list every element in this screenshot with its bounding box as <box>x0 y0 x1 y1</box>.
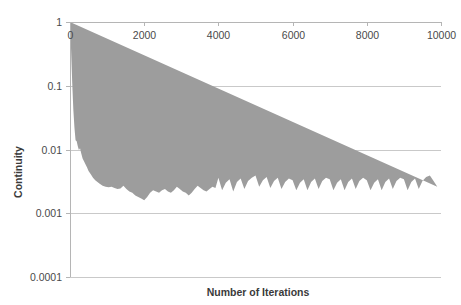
y-tick-label: 0.1 <box>47 80 62 92</box>
x-tick-label: 8000 <box>356 29 380 41</box>
x-tick-label: 10000 <box>427 29 456 41</box>
y-tick-label: 0.001 <box>36 207 62 219</box>
x-tick-label: 0 <box>68 29 74 41</box>
y-tick-label: 0.01 <box>42 144 63 156</box>
y-axis-title: Continuity <box>12 146 24 198</box>
x-tick-label: 6000 <box>282 29 306 41</box>
y-tick-label: 1 <box>56 16 62 28</box>
y-tick-label: 0.0001 <box>30 271 62 283</box>
continuity-convergence-chart: 10.10.010.0010.0001 02000400060008000100… <box>0 0 461 305</box>
chart-canvas: 10.10.010.0010.0001 02000400060008000100… <box>0 0 461 305</box>
x-axis-title: Number of Iterations <box>207 286 310 298</box>
x-tick-label: 4000 <box>207 29 231 41</box>
x-tick-label: 2000 <box>133 29 157 41</box>
